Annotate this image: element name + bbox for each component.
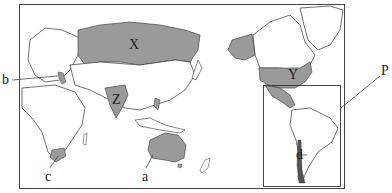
world-map [0, 0, 392, 193]
label-c: c [45, 170, 51, 184]
label-a: a [142, 170, 148, 184]
label-Z: Z [112, 93, 121, 107]
label-X: X [129, 38, 139, 52]
label-P: P [381, 64, 389, 78]
label-b: b [2, 73, 9, 87]
label-d: d [296, 148, 303, 162]
label-Y: Y [288, 68, 298, 82]
pointer-line-P [341, 76, 380, 108]
